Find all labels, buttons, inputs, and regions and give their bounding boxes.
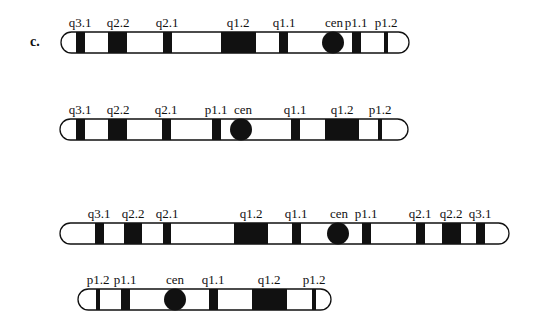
band-label: q2.2 (440, 206, 463, 221)
centromere (230, 119, 252, 141)
band-q1-2 (234, 223, 268, 244)
band-label: p1.1 (205, 102, 228, 117)
centromere (327, 223, 349, 245)
band-label: p1.1 (345, 15, 368, 30)
panel-label: c. (30, 34, 40, 49)
band-label: p1.2 (369, 102, 392, 117)
band-q2-1 (163, 32, 172, 53)
band-q3-1 (76, 32, 85, 53)
band-label: q1.2 (331, 102, 354, 117)
band-q2-1 (162, 119, 171, 140)
centromere-label: cen (325, 15, 344, 30)
band-q2-1 (163, 223, 171, 244)
band-q2-1 (416, 223, 425, 244)
band-p1-1 (121, 289, 130, 310)
band-q1-1 (279, 32, 288, 53)
band-p1-2 (312, 289, 316, 310)
band-label: q2.2 (107, 102, 130, 117)
band-q2-2 (108, 119, 127, 140)
band-label: q2.1 (409, 206, 432, 221)
band-q1-1 (292, 223, 301, 244)
band-label: q2.1 (156, 206, 179, 221)
centromere (322, 32, 344, 54)
band-label: q1.2 (258, 272, 281, 287)
band-label: p1.1 (355, 206, 378, 221)
band-p1-2 (378, 119, 382, 140)
band-label: q2.2 (107, 15, 130, 30)
band-label: q3.1 (88, 206, 111, 221)
band-label: q1.1 (285, 206, 308, 221)
band-label: q2.1 (155, 102, 178, 117)
chromosome-diagram: c. q3.1q2.2q2.1q1.2q1.1p1.1p1.2cenq3.1q2… (0, 0, 536, 323)
band-label: q3.1 (69, 102, 92, 117)
band-label: q2.2 (122, 206, 145, 221)
band-label: q2.1 (156, 15, 179, 30)
band-q1-2 (221, 32, 256, 53)
band-q1-1 (291, 119, 300, 140)
band-q3-1 (95, 223, 104, 244)
band-label: q1.1 (284, 102, 307, 117)
band-q2-2 (124, 223, 142, 244)
band-p1-2 (384, 32, 388, 53)
chromosome-1: q3.1q2.2q2.1q1.2q1.1p1.1p1.2cen (61, 15, 409, 54)
chromosome-2: q3.1q2.2q2.1p1.1q1.1q1.2p1.2cen (60, 102, 408, 141)
centromere-label: cen (166, 272, 185, 287)
band-label: q3.1 (69, 15, 92, 30)
band-label: q3.1 (469, 206, 492, 221)
band-q2-2 (442, 223, 461, 244)
chromosome-3: q3.1q2.2q2.1q1.2q1.1p1.1q2.1q2.2q3.1cen (60, 206, 509, 245)
band-q1-2 (325, 119, 359, 140)
band-q3-1 (476, 223, 485, 244)
band-q1-2 (252, 289, 287, 310)
band-p1-2 (96, 289, 100, 310)
band-q3-1 (76, 119, 85, 140)
band-p1-1 (212, 119, 221, 140)
band-label: p1.2 (87, 272, 110, 287)
band-label: q1.2 (227, 15, 250, 30)
centromere (164, 289, 186, 311)
chromosome-4: p1.2p1.1q1.1q1.2p1.2cen (78, 272, 331, 311)
band-label: p1.2 (375, 15, 398, 30)
band-q1-1 (209, 289, 218, 310)
band-label: q1.1 (273, 15, 296, 30)
band-label: q1.2 (240, 206, 263, 221)
band-label: q1.1 (202, 272, 225, 287)
centromere-label: cen (234, 102, 253, 117)
band-label: p1.1 (114, 272, 137, 287)
chromosome-body (78, 289, 331, 310)
band-label: p1.2 (303, 272, 326, 287)
band-q2-2 (108, 32, 127, 53)
band-p1-1 (362, 223, 371, 244)
band-p1-1 (352, 32, 361, 53)
centromere-label: cen (330, 206, 349, 221)
